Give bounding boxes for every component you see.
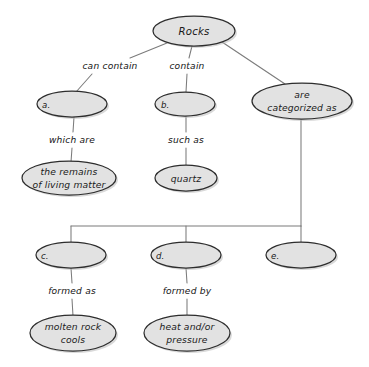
node-molten-label-line1: molten rock	[45, 321, 102, 332]
concept-map-diagram: Rocks a. b. are categorized as	[0, 0, 369, 367]
node-rocks-label: Rocks	[179, 26, 210, 37]
node-d-label: d.	[156, 251, 165, 261]
node-b[interactable]: b.	[155, 92, 217, 118]
edge-d-to-heat-upper	[186, 268, 187, 283]
node-categorized-label-line2: categorized as	[267, 102, 337, 113]
node-e[interactable]: e.	[266, 242, 338, 270]
node-categorized-label-line1: are	[294, 89, 310, 100]
node-remains-label-line1: the remains	[41, 166, 98, 177]
node-c[interactable]: c.	[36, 242, 108, 270]
node-c-label: c.	[41, 251, 49, 261]
edge-label-formed-by: formed by	[163, 286, 212, 296]
edge-a-to-remains-lower	[71, 148, 72, 162]
node-the-remains-of-living-matter[interactable]: the remains of living matter	[22, 161, 118, 197]
edge-a-to-remains-upper	[73, 117, 74, 132]
node-remains-label-line2: of living matter	[32, 179, 106, 190]
node-a-label: a.	[42, 100, 50, 110]
node-quartz-label: quartz	[171, 173, 201, 184]
edge-label-can-contain: can contain	[82, 61, 137, 71]
node-are-categorized-as[interactable]: are categorized as	[252, 83, 354, 121]
edge-c-to-molten-lower	[72, 299, 73, 316]
node-quartz[interactable]: quartz	[155, 165, 219, 193]
edge-rocks-to-b-lower	[186, 74, 187, 92]
edge-label-such-as: such as	[168, 135, 204, 145]
node-heat-label-line2: pressure	[165, 334, 207, 345]
edge-rocks-to-categorized	[222, 42, 285, 84]
node-a[interactable]: a.	[37, 91, 109, 119]
edge-label-formed-as: formed as	[48, 286, 96, 296]
edge-c-to-molten-upper	[71, 268, 72, 283]
node-heat-label-line1: heat and/or	[159, 321, 215, 332]
concept-map-canvas: Rocks a. b. are categorized as	[0, 0, 369, 367]
edge-label-which-are: which are	[49, 135, 95, 145]
edge-rocks-to-a-upper	[130, 43, 167, 58]
node-heat-and-or-pressure[interactable]: heat and/or pressure	[144, 315, 232, 353]
edge-rocks-to-a-lower	[76, 74, 92, 92]
node-molten-label-line2: cools	[61, 334, 85, 345]
node-d[interactable]: d.	[151, 242, 223, 270]
node-e-label: e.	[271, 251, 279, 261]
node-molten-rock-cools[interactable]: molten rock cools	[30, 315, 118, 353]
edge-label-contain: contain	[169, 61, 204, 71]
node-b-label: b.	[161, 100, 170, 110]
